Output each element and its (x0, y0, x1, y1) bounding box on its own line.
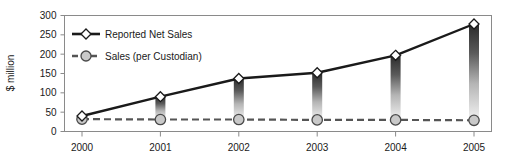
x-tick-label: 2004 (384, 142, 407, 153)
y-tick-label: 300 (40, 10, 57, 21)
data-point-sales-per-custodian (155, 114, 165, 124)
y-tick-label: 100 (40, 87, 57, 98)
legend-circle-marker-icon (81, 51, 91, 61)
data-point-sales-per-custodian (390, 115, 400, 125)
line-chart: 050100150200250300 200020012002200320042… (0, 0, 505, 164)
chart-background (0, 0, 505, 164)
legend-label-reported-net-sales: Reported Net Sales (105, 29, 192, 40)
data-point-sales-per-custodian (312, 115, 322, 125)
x-tick-label: 2001 (149, 142, 172, 153)
y-tick-label: 200 (40, 49, 57, 60)
x-tick-label: 2000 (71, 142, 94, 153)
y-tick-label: 0 (51, 126, 57, 137)
x-tick-label: 2005 (463, 142, 486, 153)
connector-bar (312, 73, 322, 120)
connector-bar (469, 24, 479, 120)
x-tick-label: 2003 (306, 142, 329, 153)
legend-label-sales-per-custodian: Sales (per Custodian) (105, 51, 202, 62)
connector-bar (391, 55, 401, 120)
connector-bar (234, 79, 244, 120)
chart-container: 050100150200250300 200020012002200320042… (0, 0, 505, 164)
y-tick-label: 150 (40, 68, 57, 79)
y-axis-title: $ million (5, 55, 16, 92)
data-point-sales-per-custodian (469, 115, 479, 125)
x-tick-label: 2002 (228, 142, 251, 153)
y-tick-label: 250 (40, 29, 57, 40)
y-tick-label: 50 (45, 107, 57, 118)
data-point-sales-per-custodian (234, 114, 244, 124)
